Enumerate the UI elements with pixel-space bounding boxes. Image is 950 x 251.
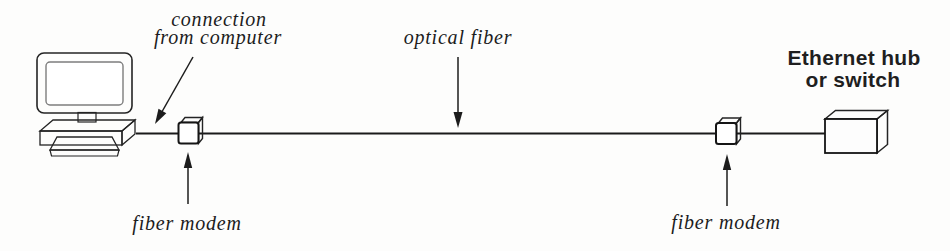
keyboard-front — [50, 150, 119, 156]
fiber-modem-icon — [179, 118, 203, 144]
diagram-canvas: connection from computer optical fiber f… — [0, 0, 950, 251]
fiber-modem-icon — [716, 118, 741, 144]
modem-right-front — [716, 123, 737, 144]
label-fiber-modem-right: fiber modem — [671, 211, 780, 234]
arrowhead-down-left — [155, 109, 166, 124]
arrowhead-up — [723, 154, 731, 170]
hub-side — [877, 111, 888, 154]
optical-fiber-arrow — [454, 57, 463, 128]
label-hub-line2: or switch — [806, 68, 901, 91]
computer-base-side — [122, 120, 135, 145]
keyboard-keys — [50, 137, 119, 150]
arrowhead-up — [184, 152, 192, 168]
ethernet-hub-icon — [825, 111, 888, 154]
modem-left-front — [179, 123, 199, 144]
network-diagram: connection from computer optical fiber f… — [0, 0, 950, 251]
monitor-screen — [46, 62, 123, 105]
computer-icon — [37, 53, 135, 156]
connection-arrow — [155, 57, 193, 124]
label-optical-fiber: optical fiber — [404, 26, 513, 49]
label-hub-line1: Ethernet hub — [787, 46, 920, 69]
label-connection-line2: from computer — [154, 26, 282, 49]
label-fiber-modem-left: fiber modem — [132, 212, 241, 235]
hub-front — [825, 119, 877, 153]
fiber-modem-left-arrow — [184, 152, 192, 204]
computer-base-front — [40, 131, 122, 145]
fiber-modem-right-arrow — [723, 154, 731, 206]
arrowhead-down — [454, 112, 463, 128]
